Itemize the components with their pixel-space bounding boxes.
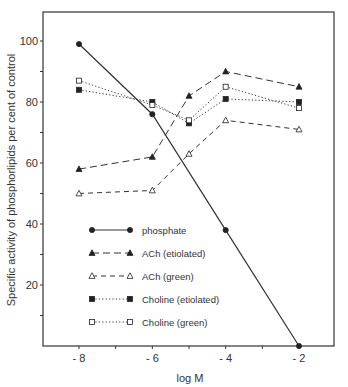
open-triangle-marker-icon (127, 273, 133, 279)
legend-item: ACh (etiolated) (89, 248, 205, 259)
open-square-marker-icon (223, 84, 228, 89)
x-tick-label: - 4 (219, 352, 232, 364)
filled-circle-marker-icon (150, 112, 155, 117)
filled-circle-marker-icon (127, 227, 132, 232)
series-choline-green (77, 78, 302, 123)
line-chart: 20406080100- 8- 6- 4- 2log MSpecific act… (0, 0, 348, 387)
legend-label: ACh (etiolated) (142, 248, 205, 259)
filled-square-marker-icon (77, 87, 82, 92)
y-axis-label: Specific activity of phosphorlipids per … (5, 54, 17, 307)
legend-item: phosphate (89, 225, 186, 236)
filled-triangle-marker-icon (223, 68, 229, 74)
filled-circle-marker-icon (76, 41, 81, 46)
open-square-marker-icon (128, 320, 133, 325)
filled-square-marker-icon (90, 297, 95, 302)
legend-label: phosphate (142, 225, 186, 236)
open-square-marker-icon (187, 118, 192, 123)
x-tick-label: - 8 (73, 352, 86, 364)
legend: phosphateACh (etiolated)ACh (green)Choli… (89, 225, 219, 328)
legend-item: ACh (green) (89, 271, 194, 282)
x-tick-label: - 6 (146, 352, 159, 364)
filled-circle-marker-icon (89, 227, 94, 232)
open-square-marker-icon (90, 320, 95, 325)
legend-item: Choline (etiolated) (90, 294, 220, 305)
legend-label: ACh (green) (142, 271, 194, 282)
legend-item: Choline (green) (90, 317, 208, 328)
series-ach-green (76, 117, 302, 196)
y-tick-label: 60 (26, 157, 38, 169)
filled-triangle-marker-icon (186, 93, 192, 99)
open-square-marker-icon (297, 106, 302, 111)
open-square-marker-icon (150, 103, 155, 108)
filled-square-marker-icon (223, 96, 228, 101)
y-tick-label: 40 (26, 218, 38, 230)
filled-triangle-marker-icon (149, 154, 155, 160)
chart-container: 20406080100- 8- 6- 4- 2log MSpecific act… (0, 0, 348, 387)
filled-circle-marker-icon (223, 228, 228, 233)
x-axis-label: log M (177, 372, 204, 384)
filled-triangle-marker-icon (296, 84, 302, 90)
filled-square-marker-icon (297, 100, 302, 105)
open-triangle-marker-icon (223, 117, 229, 123)
x-tick-label: - 2 (293, 352, 306, 364)
legend-label: Choline (etiolated) (142, 294, 219, 305)
open-square-marker-icon (77, 78, 82, 83)
filled-circle-marker-icon (296, 343, 301, 348)
y-tick-label: 100 (20, 35, 38, 47)
y-tick-label: 20 (26, 279, 38, 291)
legend-label: Choline (green) (142, 317, 207, 328)
y-tick-label: 80 (26, 96, 38, 108)
filled-square-marker-icon (128, 297, 133, 302)
